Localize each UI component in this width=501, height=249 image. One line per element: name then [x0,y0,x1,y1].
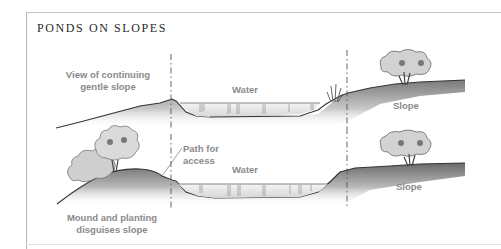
bottom-cross-section [57,126,465,208]
bottom-slope-label: Slope [396,181,422,193]
shrub-icon [380,130,431,166]
mound-label: Mound and planting disguises slope [62,212,162,236]
top-left-label: View of continuing gentle slope [58,69,158,93]
shrub-icon [380,50,431,86]
path-leader-line [162,148,182,176]
top-slope-label: Slope [393,100,419,112]
bottom-water-label: Water [232,164,258,176]
path-for-access-label: Path for access [183,143,219,167]
top-water-label: Water [232,84,258,96]
